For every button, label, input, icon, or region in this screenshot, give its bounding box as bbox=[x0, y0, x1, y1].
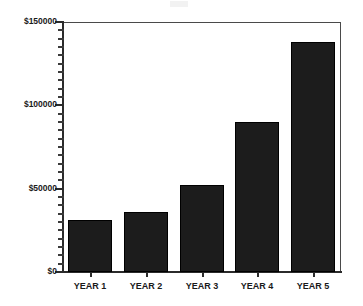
bar bbox=[180, 185, 224, 272]
bar bbox=[235, 122, 279, 272]
y-axis-tick-minor bbox=[58, 88, 64, 90]
y-axis-tick-minor bbox=[58, 46, 64, 48]
y-axis-tick-minor bbox=[58, 213, 64, 215]
y-axis-tick-minor bbox=[58, 146, 64, 148]
y-axis-tick-minor bbox=[58, 38, 64, 40]
x-axis-tick-label: YEAR 1 bbox=[62, 281, 118, 291]
x-axis-tick bbox=[90, 272, 92, 277]
y-axis-tick-minor bbox=[58, 71, 64, 73]
bar-chart: $150000$100000$50000$0 YEAR 1YEAR 2YEAR … bbox=[0, 0, 363, 306]
y-axis-tick-minor bbox=[58, 204, 64, 206]
y-axis-tick-minor bbox=[58, 196, 64, 198]
x-axis-tick bbox=[202, 272, 204, 277]
y-axis-tick-label: $100000 bbox=[24, 99, 57, 109]
y-axis-tick-minor bbox=[58, 229, 64, 231]
x-axis-tick-label: YEAR 5 bbox=[285, 281, 341, 291]
y-axis-tick-minor bbox=[58, 163, 64, 165]
bar bbox=[68, 220, 112, 272]
y-axis-labels: $150000$100000$50000$0 bbox=[0, 0, 57, 306]
y-axis-tick-minor bbox=[58, 263, 64, 265]
x-axis-tick bbox=[257, 272, 259, 277]
y-axis-tick-minor bbox=[58, 129, 64, 131]
y-axis-tick-label: $150000 bbox=[24, 16, 57, 26]
y-axis-tick-minor bbox=[58, 96, 64, 98]
y-axis-tick-minor bbox=[58, 63, 64, 65]
y-axis-tick-minor bbox=[58, 154, 64, 156]
x-axis-tick-label: YEAR 3 bbox=[174, 281, 230, 291]
y-axis-tick-minor bbox=[58, 29, 64, 31]
y-axis-tick-minor bbox=[58, 254, 64, 256]
y-axis-tick-label: $0 bbox=[48, 266, 57, 276]
y-axis-tick-minor bbox=[58, 113, 64, 115]
y-axis-tick-label: $50000 bbox=[29, 183, 57, 193]
x-axis-tick-label: YEAR 2 bbox=[118, 281, 174, 291]
y-axis-tick-minor bbox=[58, 121, 64, 123]
bar bbox=[124, 212, 168, 272]
y-axis-tick-minor bbox=[58, 79, 64, 81]
x-axis-tick-label: YEAR 4 bbox=[229, 281, 285, 291]
chart-title-artifact bbox=[170, 1, 188, 7]
x-axis-tick bbox=[313, 272, 315, 277]
y-axis-tick-minor bbox=[58, 138, 64, 140]
y-axis-tick-minor bbox=[58, 171, 64, 173]
y-axis-tick-minor bbox=[58, 238, 64, 240]
x-axis-tick bbox=[146, 272, 148, 277]
bar bbox=[291, 42, 335, 272]
y-axis-tick-minor bbox=[58, 221, 64, 223]
y-axis-tick-minor bbox=[58, 54, 64, 56]
y-axis-tick-minor bbox=[58, 179, 64, 181]
y-axis-tick-minor bbox=[58, 246, 64, 248]
